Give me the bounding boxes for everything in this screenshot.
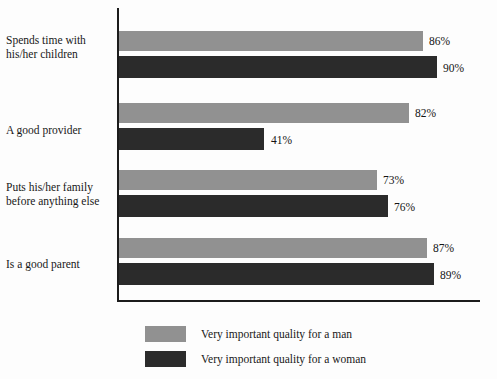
bar-man-good-provider (119, 103, 409, 123)
legend-swatch-woman-icon (145, 351, 186, 367)
bar-man-puts-family-first (119, 170, 377, 190)
bar-value-woman-spends-time: 90% (443, 63, 464, 75)
bar-value-woman-good-provider: 41% (271, 135, 292, 147)
category-label-line-2: his/her children (6, 48, 114, 62)
category-label-line-2: before anything else (6, 195, 114, 209)
x-axis-line (117, 300, 480, 302)
bar-woman-spends-time (119, 56, 437, 78)
category-label-puts-family-first: Puts his/her family before anything else (6, 181, 114, 208)
category-label-line-1: Spends time with (6, 34, 114, 48)
bar-man-spends-time (119, 31, 423, 51)
legend-swatch-man-icon (145, 326, 186, 342)
bar-man-good-parent (119, 238, 427, 258)
category-label-spends-time: Spends time with his/her children (6, 34, 114, 61)
legend-label-man: Very important quality for a man (201, 327, 352, 341)
bar-woman-good-provider (119, 128, 264, 150)
legend-label-woman: Very important quality for a woman (201, 352, 366, 366)
category-label-line-1: Is a good parent (6, 258, 114, 272)
category-label-good-provider: A good provider (6, 124, 114, 138)
bar-value-man-puts-family-first: 73% (383, 175, 404, 187)
bar-value-woman-good-parent: 89% (440, 270, 461, 282)
bar-woman-puts-family-first (119, 195, 388, 217)
bar-value-man-good-parent: 87% (433, 243, 454, 255)
bar-woman-good-parent (119, 263, 434, 285)
category-label-line-1: A good provider (6, 124, 114, 138)
bar-value-man-good-provider: 82% (415, 108, 436, 120)
bar-chart-figure: Spends time with his/her children A good… (0, 0, 497, 379)
category-label-line-1: Puts his/her family (6, 181, 114, 195)
bar-value-woman-puts-family-first: 76% (394, 202, 415, 214)
bar-value-man-spends-time: 86% (429, 36, 450, 48)
category-label-good-parent: Is a good parent (6, 258, 114, 272)
